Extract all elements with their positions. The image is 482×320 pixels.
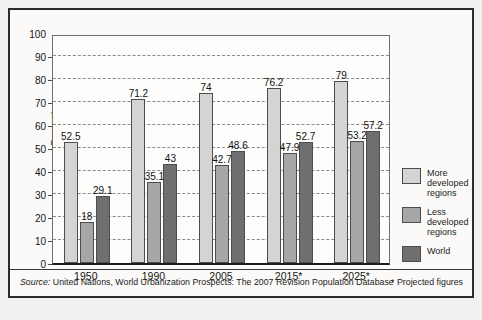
projected-figures-note: * Projected figures (391, 278, 463, 287)
y-axis-tick-label: 70 (20, 99, 46, 109)
chart-figure-frame: Percent 52.51829.171.235.1437442.748.676… (8, 8, 474, 298)
legend-label-less-developed: Less developed regions (427, 207, 476, 237)
source-note-text: United Nations, World Urbanization Prosp… (50, 277, 393, 287)
legend-swatch-less-developed-icon (402, 207, 421, 223)
plot-area: 52.51829.171.235.1437442.748.676.247.952… (52, 35, 390, 265)
bar-group: 7442.748.6 (188, 36, 256, 263)
y-axis-tick-label: 90 (20, 53, 46, 63)
bar-value-label: 52.7 (296, 132, 315, 142)
bar-value-label: 79 (336, 71, 347, 81)
source-note: Source: United Nations, World Urbanizati… (20, 278, 394, 287)
y-axis-tick-mark (48, 80, 52, 81)
bar-value-label: 48.6 (228, 141, 247, 151)
bar[interactable]: 18 (80, 222, 94, 263)
bar[interactable]: 48.6 (231, 151, 245, 263)
legend-item-less-developed[interactable]: Less developed regions (402, 207, 476, 237)
bar[interactable]: 57.2 (366, 131, 380, 263)
y-axis-tick-mark (48, 241, 52, 242)
y-axis-tick-mark (48, 195, 52, 196)
bar-value-label: 52.5 (61, 132, 80, 142)
legend-item-more-developed[interactable]: More developed regions (402, 168, 476, 198)
y-axis-tick-label: 20 (20, 214, 46, 224)
bar-value-label: 29.1 (93, 186, 112, 196)
bar[interactable]: 35.1 (147, 182, 161, 263)
legend-label-more-developed: More developed regions (427, 168, 476, 198)
bar-group: 71.235.143 (121, 36, 189, 263)
y-axis-tick-mark (48, 103, 52, 104)
y-axis-tick-label: 100 (20, 30, 46, 40)
bar-value-label: 53.2 (347, 131, 366, 141)
bar-value-label: 74 (200, 83, 211, 93)
y-axis-tick-mark (48, 218, 52, 219)
y-axis-tick-label: 10 (20, 237, 46, 247)
bar[interactable]: 43 (163, 164, 177, 263)
bar[interactable]: 74 (199, 93, 213, 263)
bar[interactable]: 47.9 (283, 153, 297, 263)
legend-label-world: World (427, 246, 450, 256)
legend-swatch-more-developed-icon (402, 168, 421, 184)
chart-legend: More developed regions Less developed re… (402, 168, 476, 271)
bar-value-label: 43 (165, 154, 176, 164)
bar[interactable]: 53.2 (350, 141, 364, 263)
bar-value-label: 35.1 (145, 172, 164, 182)
bar[interactable]: 42.7 (215, 165, 229, 263)
source-note-prefix: Source: (20, 277, 50, 287)
plot-region: Percent 52.51829.171.235.1437442.748.676… (52, 35, 390, 265)
bar[interactable]: 71.2 (131, 99, 145, 263)
bar-group: 52.51829.1 (53, 36, 121, 263)
bar-value-label: 18 (81, 212, 92, 222)
y-axis-tick-label: 50 (20, 145, 46, 155)
y-axis-tick-label: 60 (20, 122, 46, 132)
y-axis-tick-mark (48, 172, 52, 173)
y-axis-tick-mark (48, 149, 52, 150)
bar[interactable]: 76.2 (267, 88, 281, 263)
bar-group: 76.247.952.7 (256, 36, 324, 263)
footer-divider (10, 269, 472, 270)
y-axis-tick-mark (48, 126, 52, 127)
y-axis-tick-mark (48, 57, 52, 58)
bar-value-label: 57.2 (363, 121, 382, 131)
bar[interactable]: 52.5 (64, 142, 78, 263)
bar[interactable]: 79 (334, 81, 348, 263)
bar-value-label: 42.7 (212, 155, 231, 165)
bar-group: 7953.257.2 (323, 36, 390, 263)
legend-item-world[interactable]: World (402, 246, 476, 262)
y-axis-tick-label: 80 (20, 76, 46, 86)
bar[interactable]: 29.1 (96, 196, 110, 263)
bar-value-label: 71.2 (129, 89, 148, 99)
y-axis-tick-mark (48, 264, 52, 265)
bar-value-label: 76.2 (264, 78, 283, 88)
legend-swatch-world-icon (402, 246, 421, 262)
bar-value-label: 47.9 (280, 143, 299, 153)
bar[interactable]: 52.7 (299, 142, 313, 263)
y-axis-tick-label: 30 (20, 191, 46, 201)
y-axis-tick-label: 40 (20, 168, 46, 178)
